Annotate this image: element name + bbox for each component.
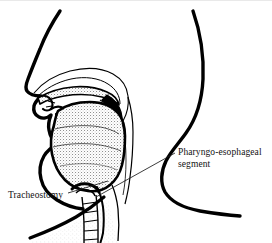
label-tracheostomy: Tracheostomy [8, 190, 63, 202]
anatomy-figure: Pharyngo-esophageal segment Tracheostomy [0, 0, 272, 243]
anatomy-illustration [0, 1, 272, 243]
figure-background [0, 1, 272, 243]
label-pharyngo-esophageal-segment: Pharyngo-esophageal segment [178, 147, 270, 170]
tongue [51, 102, 125, 191]
